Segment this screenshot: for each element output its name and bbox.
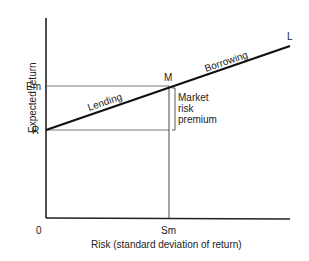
sm-label: Sm <box>161 225 176 236</box>
borrowing-label: Borrowing <box>203 49 249 74</box>
em-label: Em <box>26 81 41 92</box>
r-label: R <box>32 125 39 136</box>
x-axis-label: Risk (standard deviation of return) <box>91 239 242 250</box>
y-axis-label: Expected return <box>27 62 38 133</box>
premium-line-2: risk <box>178 103 195 114</box>
premium-line-1: Market <box>178 92 209 103</box>
capital-market-line <box>46 46 290 130</box>
m-label: M <box>164 72 172 83</box>
x-axis <box>46 218 290 219</box>
premium-bracket <box>172 88 175 130</box>
l-label: L <box>287 31 293 42</box>
origin-label: 0 <box>36 225 42 236</box>
capital-market-line-diagram: Expected return Em R 0 Sm Risk (standard… <box>0 0 309 261</box>
premium-line-3: premium <box>178 114 217 125</box>
